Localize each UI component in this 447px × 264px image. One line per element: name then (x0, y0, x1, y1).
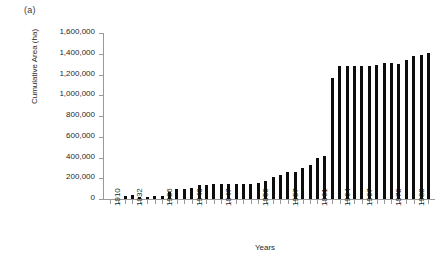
x-tick-mark (162, 200, 163, 204)
x-axis-title: Years (100, 243, 430, 252)
bar (346, 66, 349, 199)
y-tick-label: 1,400,000 (59, 48, 95, 57)
bar (227, 184, 230, 199)
x-tick-mark (273, 200, 274, 204)
bar (368, 66, 371, 199)
y-tick-mark (99, 158, 103, 159)
bar (375, 65, 378, 199)
x-tick-mark (317, 200, 318, 204)
x-tick-mark (184, 200, 185, 204)
bar (168, 192, 171, 199)
x-tick-mark (221, 200, 222, 204)
bar (124, 196, 127, 199)
x-tick-mark (125, 200, 126, 204)
bar (212, 184, 215, 199)
bar (360, 66, 363, 199)
bar (264, 181, 267, 199)
y-tick-mark (99, 178, 103, 179)
bar (309, 165, 312, 199)
x-tick-mark (414, 200, 415, 204)
x-tick-mark (384, 200, 385, 204)
y-tick-mark (99, 33, 103, 34)
x-tick-mark (258, 200, 259, 204)
y-tick-label: 1,600,000 (59, 27, 95, 36)
figure-panel-a: (a) Cumulative Area (ha) Years 1,600,000… (0, 0, 447, 264)
bar (383, 63, 386, 199)
bar (316, 158, 319, 199)
x-tick-mark (177, 200, 178, 204)
y-tick-mark (99, 75, 103, 76)
x-tick-mark (206, 200, 207, 204)
y-tick-label: 800,000 (66, 110, 95, 119)
x-tick-mark (132, 200, 133, 204)
bar (205, 185, 208, 199)
x-tick-mark (155, 200, 156, 204)
bar (286, 172, 289, 199)
bar (257, 183, 260, 199)
bar (405, 60, 408, 199)
x-tick-mark (332, 200, 333, 204)
y-tick-mark (99, 54, 103, 55)
y-tick-label: 200,000 (66, 172, 95, 181)
bar (249, 184, 252, 199)
x-tick-mark (110, 200, 111, 204)
x-tick-mark (214, 200, 215, 204)
bar (331, 78, 334, 199)
x-tick-mark (354, 200, 355, 204)
x-tick-mark (243, 200, 244, 204)
y-tick-mark (99, 116, 103, 117)
x-tick-mark (147, 200, 148, 204)
bar (220, 184, 223, 199)
bar (338, 66, 341, 199)
bar (427, 53, 430, 199)
y-axis-title: Cumulative Area (ha) (30, 2, 39, 132)
bar (272, 177, 275, 199)
bar (279, 175, 282, 199)
bar (175, 189, 178, 199)
x-tick-mark (280, 200, 281, 204)
y-tick-mark (99, 199, 103, 200)
x-tick-mark (377, 200, 378, 204)
bar (242, 184, 245, 199)
bar (397, 64, 400, 199)
x-tick-mark (303, 200, 304, 204)
y-tick-label: 1,200,000 (59, 69, 95, 78)
bar (390, 63, 393, 199)
bar (146, 197, 149, 199)
y-tick-label: 400,000 (66, 152, 95, 161)
x-tick-mark (236, 200, 237, 204)
y-tick-mark (99, 95, 103, 96)
bar (301, 168, 304, 199)
bar (198, 185, 201, 199)
bar (138, 197, 141, 199)
plot-area (104, 33, 434, 199)
y-tick-label: 0 (91, 193, 95, 202)
x-tick-mark (288, 200, 289, 204)
y-tick-label: 600,000 (66, 131, 95, 140)
bar (323, 156, 326, 199)
x-tick-mark (428, 200, 429, 204)
bar (183, 189, 186, 199)
bar (353, 66, 356, 199)
bar (131, 195, 134, 199)
bar (412, 56, 415, 199)
x-tick-mark (251, 200, 252, 204)
x-tick-mark (362, 200, 363, 204)
bar (235, 184, 238, 199)
x-tick-mark (406, 200, 407, 204)
bar (161, 196, 164, 199)
y-tick-mark (99, 137, 103, 138)
y-tick-label: 1,000,000 (59, 89, 95, 98)
bar (420, 55, 423, 199)
x-tick-mark (391, 200, 392, 204)
x-tick-mark (340, 200, 341, 204)
x-tick-mark (192, 200, 193, 204)
bar (153, 196, 156, 199)
x-tick-mark (310, 200, 311, 204)
bar (294, 172, 297, 199)
bar (190, 188, 193, 199)
